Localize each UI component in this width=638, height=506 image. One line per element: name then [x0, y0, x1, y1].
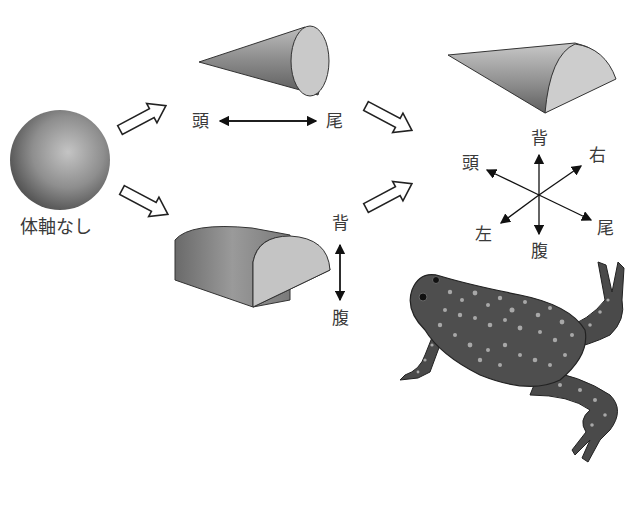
- star-left-label: 左: [475, 226, 492, 243]
- cone-shape: [199, 26, 329, 96]
- cylinder-ventral-label: 腹: [332, 310, 349, 327]
- frog-illustration: [400, 262, 624, 462]
- half-cylinder-shape: [175, 227, 330, 308]
- star-right-label: 右: [589, 147, 606, 164]
- arrow-cylinder-to-halfcone: [361, 174, 417, 218]
- star-ventral-label: 腹: [531, 243, 548, 260]
- star-tail-label: 尾: [597, 220, 614, 237]
- cone-head-label: 頭: [192, 113, 209, 130]
- no-body-axis-label: 体軸なし: [20, 218, 92, 236]
- star-head-label: 頭: [462, 155, 479, 172]
- arrow-sphere-to-cone: [115, 96, 171, 140]
- star-dorsal-label: 背: [531, 130, 548, 147]
- three-axis-star: [487, 155, 591, 234]
- arrow-cone-to-halfcone: [361, 96, 417, 140]
- cone-tail-label: 尾: [326, 113, 343, 130]
- half-cone-shape: [448, 43, 616, 113]
- arrow-sphere-to-cylinder: [117, 180, 173, 224]
- cylinder-dorsal-label: 背: [332, 215, 349, 232]
- sphere-shape: [10, 110, 110, 210]
